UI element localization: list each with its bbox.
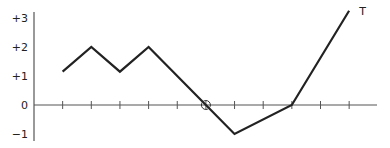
annotations: T (201, 5, 366, 110)
y-tick-label: +3 (12, 12, 28, 25)
series-label: T (358, 5, 366, 18)
line-chart: +3+2+10−1 T (0, 0, 390, 148)
y-axis: +3+2+10−1 (12, 12, 34, 141)
series-polyline (63, 11, 350, 134)
y-tick-label: +2 (12, 41, 28, 54)
series-line (63, 11, 350, 134)
y-tick-label: 0 (21, 99, 28, 112)
y-tick-label: −1 (12, 128, 28, 141)
y-tick-label: +1 (12, 70, 28, 83)
